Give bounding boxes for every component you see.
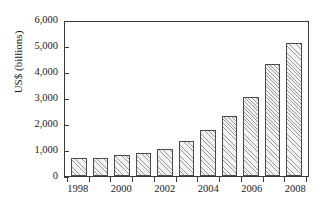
bar[interactable]: [179, 141, 195, 176]
x-tick-mark: [241, 177, 242, 182]
bar-slot: [68, 22, 90, 176]
bar[interactable]: [114, 155, 130, 176]
x-tick-label: 2002: [142, 183, 188, 194]
x-tick-mark: [176, 177, 177, 182]
x-tick-mark: [263, 177, 264, 182]
x-tick-mark: [306, 177, 307, 182]
bar[interactable]: [71, 158, 87, 176]
y-tick-mark: [64, 125, 69, 126]
x-tick-mark: [284, 177, 285, 182]
x-tick-mark: [154, 177, 155, 182]
bar[interactable]: [265, 64, 281, 176]
bar[interactable]: [93, 158, 109, 176]
y-tick-mark: [64, 73, 69, 74]
bar[interactable]: [286, 43, 302, 176]
bar[interactable]: [243, 97, 259, 176]
bar-slot: [90, 22, 112, 176]
y-tick-label: 1,000: [0, 144, 58, 155]
y-tick-label: 5,000: [0, 40, 58, 51]
bar-slot: [240, 22, 262, 176]
bar[interactable]: [200, 130, 216, 176]
x-tick-label: 2006: [229, 183, 275, 194]
bar[interactable]: [157, 149, 173, 176]
y-tick-label: 4,000: [0, 66, 58, 77]
bars-container: [65, 22, 308, 176]
y-tick-mark: [64, 151, 69, 152]
y-tick-label: 3,000: [0, 92, 58, 103]
bar[interactable]: [222, 116, 238, 176]
x-tick-mark: [67, 177, 68, 182]
x-tick-label: 2008: [272, 183, 318, 194]
bar-chart-figure: US$ (billions) 01,0002,0003,0004,0005,00…: [0, 0, 323, 207]
y-tick-mark: [64, 47, 69, 48]
bar[interactable]: [136, 153, 152, 176]
x-tick-label: 2000: [98, 183, 144, 194]
y-tick-mark: [64, 99, 69, 100]
x-tick-label: 2004: [185, 183, 231, 194]
bar-slot: [133, 22, 155, 176]
x-tick-mark: [219, 177, 220, 182]
plot-area: [64, 21, 309, 177]
bar-slot: [176, 22, 198, 176]
y-tick-label: 0: [0, 170, 58, 181]
bar-slot: [197, 22, 219, 176]
x-tick-label: 1998: [55, 183, 101, 194]
bar-slot: [283, 22, 305, 176]
y-tick-label: 6,000: [0, 14, 58, 25]
x-tick-mark: [132, 177, 133, 182]
y-tick-mark: [64, 21, 69, 22]
bar-slot: [262, 22, 284, 176]
y-tick-label: 2,000: [0, 118, 58, 129]
bar-slot: [111, 22, 133, 176]
x-tick-mark: [197, 177, 198, 182]
bar-slot: [219, 22, 241, 176]
x-tick-mark: [89, 177, 90, 182]
x-tick-mark: [110, 177, 111, 182]
bar-slot: [154, 22, 176, 176]
